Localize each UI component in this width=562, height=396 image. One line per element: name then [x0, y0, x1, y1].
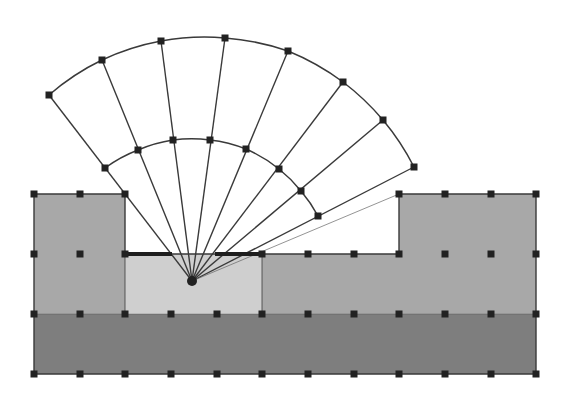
inner-arc-node: [207, 137, 214, 144]
grid-node: [259, 371, 266, 378]
fan-origin-node: [187, 276, 197, 286]
regions-layer: [34, 194, 536, 374]
grid-node: [214, 311, 221, 318]
grid-node: [305, 251, 312, 258]
grid-node: [396, 371, 403, 378]
outer-arc-node: [340, 79, 347, 86]
grid-node: [305, 311, 312, 318]
grid-node: [396, 311, 403, 318]
grid-node: [31, 191, 38, 198]
inner-arc-node: [102, 165, 109, 172]
grid-node: [442, 311, 449, 318]
inner-arc-node: [298, 188, 305, 195]
grid-node: [396, 191, 403, 198]
grid-node: [77, 371, 84, 378]
grid-node: [31, 311, 38, 318]
grid-node: [351, 371, 358, 378]
fan-ray: [161, 41, 192, 281]
grid-node: [214, 371, 221, 378]
grid-node: [442, 371, 449, 378]
grid-node: [442, 191, 449, 198]
outer-arc-node: [411, 164, 418, 171]
grid-node: [488, 191, 495, 198]
grid-node: [168, 371, 175, 378]
grid-node: [168, 311, 175, 318]
grid-node: [533, 251, 540, 258]
outer-arc-node: [46, 92, 53, 99]
grid-node: [533, 191, 540, 198]
grid-node: [396, 251, 403, 258]
grid-node: [122, 311, 129, 318]
grid-node: [31, 371, 38, 378]
grid-node: [442, 251, 449, 258]
grid-node: [305, 371, 312, 378]
outer-arc-node: [380, 117, 387, 124]
inner-arc-node: [243, 146, 250, 153]
grid-node: [351, 251, 358, 258]
inner-arc-node: [170, 137, 177, 144]
grid-node: [122, 371, 129, 378]
outer-arc-node: [158, 38, 165, 45]
outer-arc-node: [285, 48, 292, 55]
inner-arc-node: [276, 166, 283, 173]
grid-node: [533, 371, 540, 378]
inner-arc-node: [315, 213, 322, 220]
grid-node: [488, 251, 495, 258]
grid-node: [77, 251, 84, 258]
outer-arc-node: [222, 35, 229, 42]
grid-node: [259, 251, 266, 258]
bottom-band: [34, 314, 536, 374]
grid-node: [488, 311, 495, 318]
grid-node: [488, 371, 495, 378]
grid-node: [31, 251, 38, 258]
inner-arc-node: [135, 147, 142, 154]
outer-arc-node: [99, 57, 106, 64]
grid-node: [533, 311, 540, 318]
grid-node: [259, 311, 266, 318]
grid-node: [77, 191, 84, 198]
diagram-canvas: [0, 0, 562, 396]
grid-node: [351, 311, 358, 318]
mesh-diagram: [0, 0, 562, 396]
grid-node: [122, 251, 129, 258]
grid-node: [77, 311, 84, 318]
right-middle-block: [262, 254, 399, 314]
grid-node: [122, 191, 129, 198]
right-block: [399, 194, 536, 314]
